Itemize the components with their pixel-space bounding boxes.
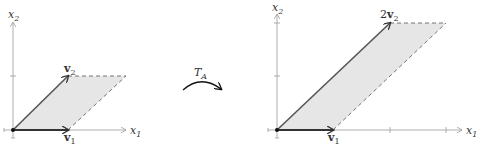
curved-arrow-icon (183, 82, 221, 90)
x-axis-label: x1 (130, 124, 141, 139)
parallelogram-fill (277, 23, 446, 130)
v2-label: v2 (63, 62, 76, 77)
transform-arrow: TA (183, 66, 221, 90)
right-diagram: x2 x1 v1 2v2 (268, 1, 477, 144)
parallelogram-fill (13, 76, 126, 130)
diagram-canvas: x2 x1 v1 v2 TA x2 x1 v1 2v2 (0, 0, 483, 144)
y-axis-label: x2 (8, 8, 19, 23)
left-diagram: x2 x1 v1 v2 (4, 8, 141, 144)
origin-dot (275, 128, 279, 132)
v1-label: v1 (327, 131, 340, 144)
y-axis-label: x2 (272, 1, 283, 16)
origin-dot (11, 128, 15, 132)
v1-label: v1 (63, 131, 76, 144)
transform-label: TA (194, 66, 207, 81)
2v2-label: 2v2 (380, 8, 399, 23)
x-axis-label: x1 (466, 124, 477, 139)
